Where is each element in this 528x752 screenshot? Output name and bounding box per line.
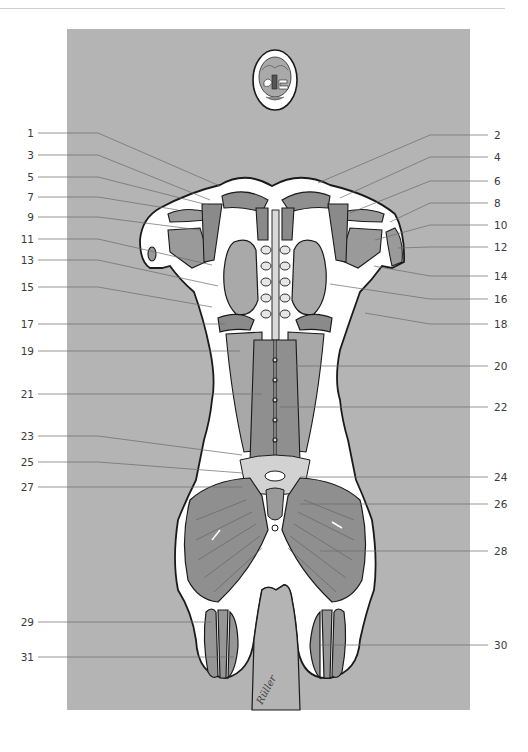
- label-30: 30: [494, 639, 507, 651]
- label-17: 17: [12, 318, 34, 330]
- label-1: 1: [12, 127, 34, 139]
- label-11: 11: [12, 233, 34, 245]
- leader-line-8: [390, 203, 488, 222]
- label-23: 23: [12, 430, 34, 442]
- label-21: 21: [12, 388, 34, 400]
- label-6: 6: [494, 175, 501, 187]
- leader-line-4: [340, 157, 488, 198]
- leader-line-1: [38, 133, 220, 186]
- leader-line-3: [38, 155, 210, 200]
- label-14: 14: [494, 270, 507, 282]
- label-29: 29: [12, 616, 34, 628]
- label-26: 26: [494, 498, 507, 510]
- label-8: 8: [494, 197, 501, 209]
- label-7: 7: [12, 191, 34, 203]
- label-24: 24: [494, 471, 507, 483]
- leader-line-12: [398, 247, 488, 248]
- label-12: 12: [494, 241, 507, 253]
- label-13: 13: [12, 254, 34, 266]
- label-25: 25: [12, 456, 34, 468]
- label-10: 10: [494, 219, 507, 231]
- label-2: 2: [494, 129, 501, 141]
- label-27: 27: [12, 481, 34, 493]
- label-28: 28: [494, 545, 507, 557]
- leader-line-18: [365, 313, 488, 324]
- label-15: 15: [12, 281, 34, 293]
- label-20: 20: [494, 360, 507, 372]
- label-18: 18: [494, 318, 507, 330]
- label-3: 3: [12, 149, 34, 161]
- anatomy-figure: Rüller: [0, 0, 528, 752]
- label-9: 9: [12, 211, 34, 223]
- label-4: 4: [494, 151, 501, 163]
- label-19: 19: [12, 345, 34, 357]
- leader-line-7: [38, 197, 178, 210]
- leader-line-2: [318, 135, 488, 183]
- label-5: 5: [12, 171, 34, 183]
- label-16: 16: [494, 293, 507, 305]
- label-22: 22: [494, 401, 507, 413]
- leader-line-15: [38, 287, 212, 307]
- head-cross-section: [253, 50, 297, 110]
- label-31: 31: [12, 651, 34, 663]
